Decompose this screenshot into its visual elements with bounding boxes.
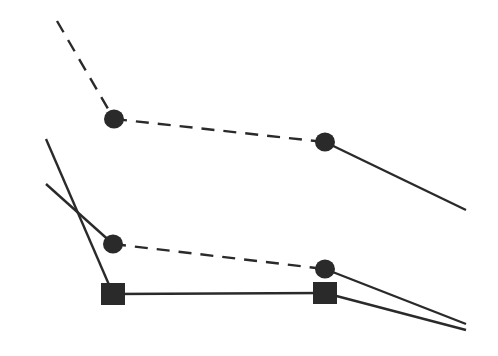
circle-marker-icon: [104, 110, 124, 129]
circle-marker-icon: [315, 260, 335, 279]
square-marker-icon: [101, 283, 125, 305]
diagram-background: [0, 0, 498, 356]
line-diagram: [0, 0, 498, 356]
square-marker-icon: [313, 282, 337, 304]
solid-line-segment: [113, 293, 325, 294]
circle-marker-icon: [315, 133, 335, 152]
circle-marker-icon: [103, 235, 123, 254]
